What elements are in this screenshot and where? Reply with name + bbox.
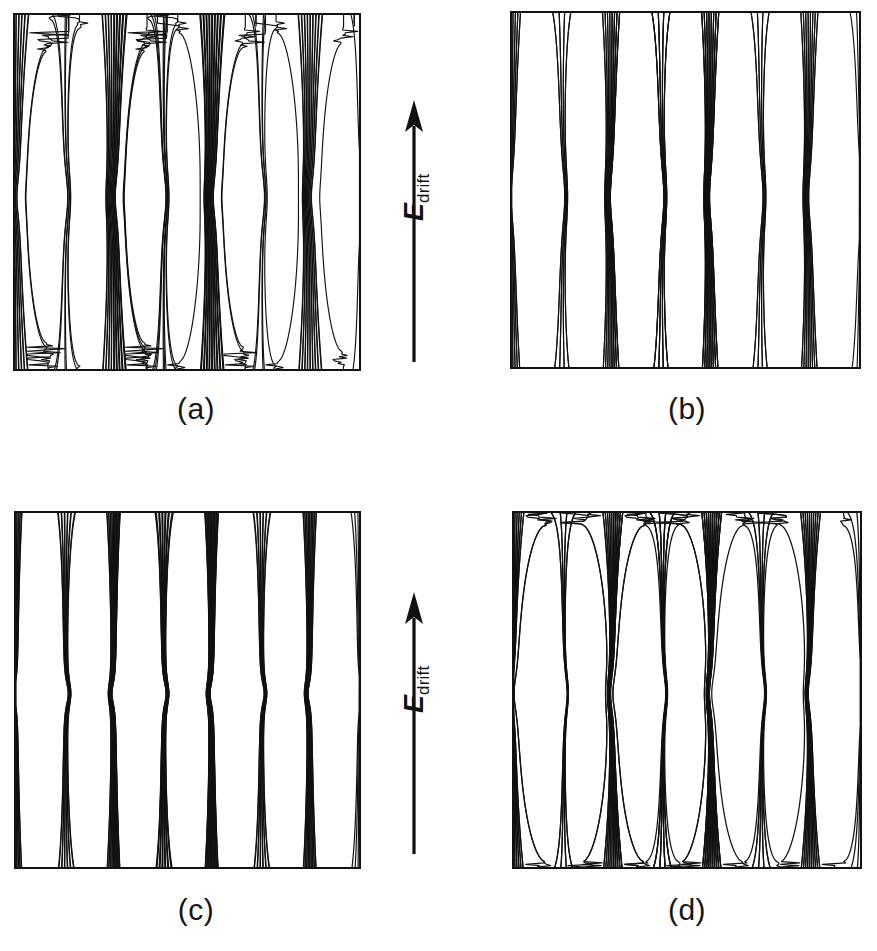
drift-arrow-top-group: Edrift <box>372 100 482 362</box>
drift-arrow-bottom-group: Edrift <box>372 592 482 854</box>
panel-a-frame <box>13 13 361 371</box>
drift-symbol: E <box>399 203 429 221</box>
panel-c-frame <box>14 511 361 869</box>
drift-label-top: Edrift <box>399 173 434 220</box>
panel-a <box>13 13 361 371</box>
drift-subscript: drift <box>414 665 433 694</box>
panel-d <box>512 511 862 869</box>
panel-c <box>14 511 361 869</box>
drift-symbol: E <box>399 695 429 713</box>
panel-b <box>510 11 861 369</box>
panel-b-frame <box>510 11 861 369</box>
panel-d-frame <box>512 511 862 869</box>
panel-a-caption: (a) <box>136 392 256 426</box>
panel-b-streamlines <box>512 13 859 367</box>
figure-root: (a) (b) (c) (d) Edrift <box>0 0 877 951</box>
panel-b-caption: (b) <box>627 392 747 426</box>
panel-c-caption: (c) <box>136 893 256 927</box>
arrow-up-icon <box>400 592 428 854</box>
panel-a-streamlines <box>15 15 359 369</box>
panel-d-caption: (d) <box>627 893 747 927</box>
panel-d-streamlines <box>514 513 860 867</box>
drift-label-bottom: Edrift <box>399 665 434 712</box>
panel-c-streamlines <box>16 513 359 867</box>
arrow-up-icon <box>400 100 428 362</box>
drift-subscript: drift <box>414 173 433 202</box>
